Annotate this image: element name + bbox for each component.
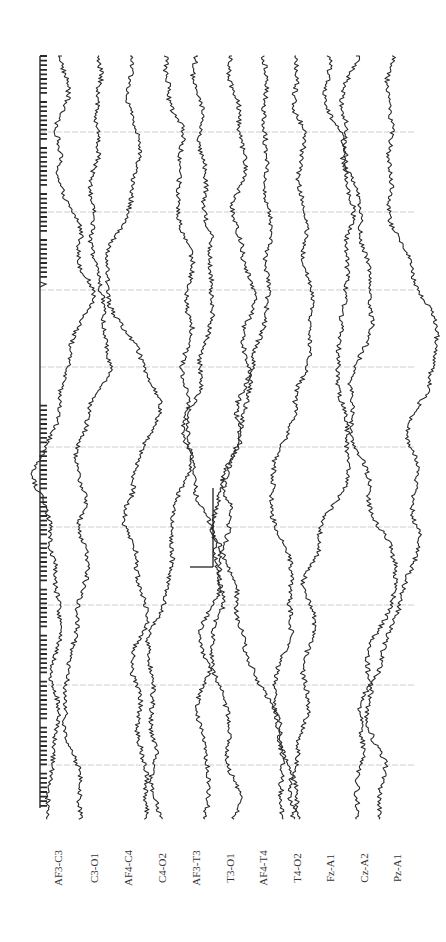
trace-af3-t3 — [182, 56, 225, 819]
channel-label-t3-o1: T3-O1 — [224, 853, 236, 882]
channel-label-fz-a1: Fz-A1 — [324, 854, 336, 882]
channel-label-pz-a1: Pz-A1 — [391, 854, 403, 882]
channel-label-af4-t4: AF4-T4 — [257, 850, 269, 885]
channel-label-af3-t3: AF3-T3 — [190, 850, 202, 885]
eeg-traces — [31, 56, 439, 819]
channel-label-af3-c3: AF3-C3 — [52, 850, 64, 886]
trace-pz-a1 — [354, 56, 439, 819]
trace-t3-o1 — [198, 56, 256, 819]
trace-c4-o2 — [146, 56, 195, 819]
trace-c3-o1 — [62, 56, 112, 819]
channel-label-af4-c4: AF4-C4 — [122, 850, 134, 886]
eeg-figure — [0, 0, 446, 942]
channel-label-c4-o2: C4-O2 — [156, 853, 168, 883]
timing-marker — [40, 56, 47, 808]
channel-label-cz-a2: Cz-A2 — [358, 853, 370, 882]
channel-label-t4-o2: T4-O2 — [291, 853, 303, 882]
channel-label-c3-o1: C3-O1 — [88, 853, 100, 883]
